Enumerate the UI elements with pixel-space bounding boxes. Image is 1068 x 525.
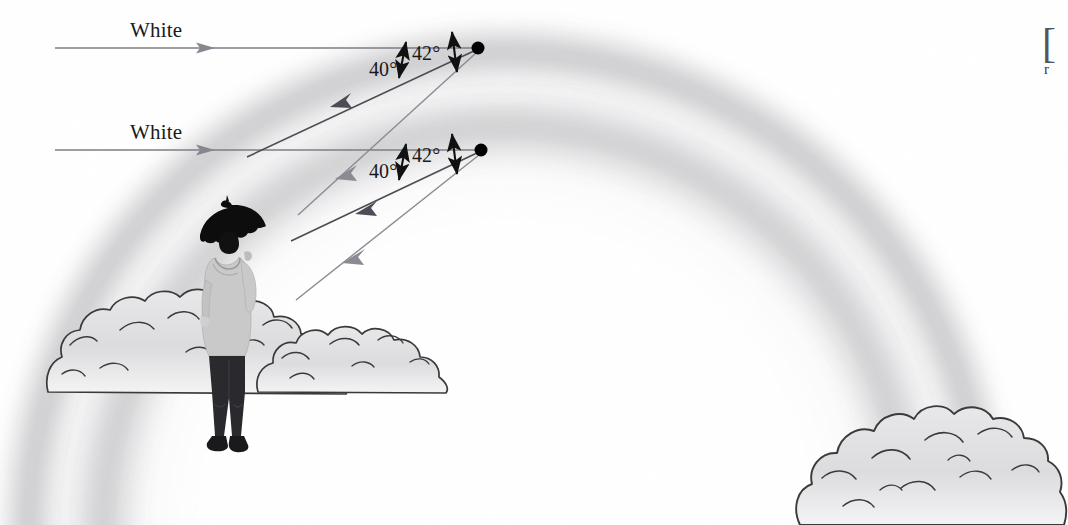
- corner-letter-mark: r: [1044, 62, 1049, 77]
- white-label-lower: White: [130, 120, 182, 145]
- angle-label-lower-40: 40°: [369, 160, 397, 183]
- angle-label-upper-40: 40°: [369, 58, 397, 81]
- angle-label-upper-42: 42°: [412, 42, 440, 65]
- corner-bracket-mark: [: [1042, 22, 1056, 64]
- angle-label-lower-42: 42°: [412, 144, 440, 167]
- rays-layer: [0, 0, 1068, 525]
- rainbow-figure: White White 40° 42° 40° 42° [ r: [0, 0, 1068, 525]
- upper-droplet: [472, 42, 485, 55]
- lower-droplet: [475, 144, 488, 157]
- white-label-upper: White: [130, 18, 182, 43]
- dispersed-rays-upper: [247, 50, 476, 215]
